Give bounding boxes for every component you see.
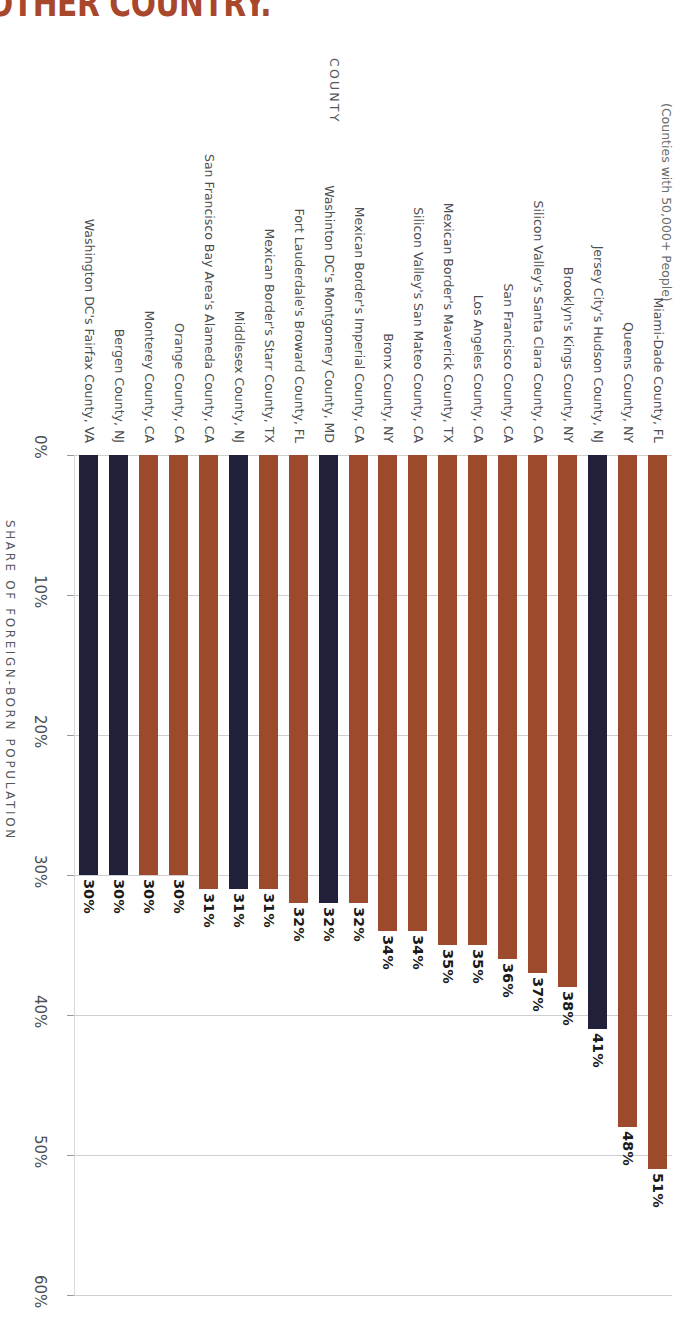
bar-9[interactable]: [349, 455, 368, 903]
value-axis-tick-label: 60%: [32, 1275, 47, 1308]
gridline-60pct: [74, 1295, 672, 1296]
category-label-9: Mexican Border's Imperial County, CA: [353, 207, 366, 443]
bar-value-label-17: 41%: [591, 1033, 606, 1068]
bar-value-label-1: 30%: [112, 879, 127, 914]
tick-mark-50pct: [67, 1155, 74, 1156]
tick-mark-40pct: [67, 1015, 74, 1016]
bar-value-label-12: 35%: [441, 949, 456, 984]
category-axis-subtitle: (Counties with 50,000+ People): [660, 103, 673, 302]
tick-mark-20pct: [67, 735, 74, 736]
category-label-17: Jersey City's Hudson County, NJ: [592, 246, 605, 443]
bar-16[interactable]: [558, 455, 577, 987]
bar-0[interactable]: [79, 455, 98, 875]
bar-3[interactable]: [169, 455, 188, 875]
tick-mark-30pct: [67, 875, 74, 876]
bar-value-label-6: 31%: [262, 893, 277, 928]
bar-11[interactable]: [408, 455, 427, 931]
bar-value-label-9: 32%: [352, 907, 367, 942]
bar-value-label-16: 38%: [561, 991, 576, 1026]
value-axis-tick-label: 30%: [32, 855, 47, 888]
category-label-3: Orange County, CA: [173, 323, 186, 443]
category-label-4: San Francisco Bay Area's Alameda County,…: [203, 154, 216, 443]
value-axis-title: SHARE OF FOREIGN-BORN POPULATION: [4, 520, 16, 841]
category-label-16: Brooklyn's Kings County, NY: [562, 267, 575, 443]
bar-14[interactable]: [498, 455, 517, 959]
bar-value-label-19: 51%: [651, 1173, 666, 1208]
gridline-0pct: [74, 455, 672, 456]
tick-mark-60pct: [67, 1295, 74, 1296]
bar-15[interactable]: [528, 455, 547, 973]
value-axis-tick-label: 0%: [32, 435, 47, 459]
bar-5[interactable]: [229, 455, 248, 889]
bar-17[interactable]: [588, 455, 607, 1029]
gridline-20pct: [74, 735, 672, 736]
category-label-1: Bergen County, NJ: [113, 329, 126, 443]
category-label-18: Queens County, NY: [622, 322, 635, 443]
bar-value-label-13: 35%: [471, 949, 486, 984]
bar-1[interactable]: [109, 455, 128, 875]
bar-2[interactable]: [139, 455, 158, 875]
bar-chart-plot: 0%10%20%30%40%50%60%SHARE OF FOREIGN-BOR…: [0, 0, 680, 1328]
bar-19[interactable]: [648, 455, 667, 1169]
category-label-15: Silicon Valley's Santa Clara County, CA: [532, 201, 545, 443]
bar-value-label-3: 30%: [172, 879, 187, 914]
category-label-13: Los Angeles County, CA: [472, 295, 485, 443]
bar-value-label-8: 32%: [322, 907, 337, 942]
category-label-14: San Francisco County, CA: [502, 283, 515, 443]
bar-value-label-15: 37%: [531, 977, 546, 1012]
bar-value-label-2: 30%: [142, 879, 157, 914]
category-label-8: Washinton DC's Montgomery County, MD: [323, 185, 336, 443]
category-label-19: Miami-Dade County, FL: [652, 297, 665, 443]
category-label-10: Bronx County, NY: [382, 333, 395, 443]
value-axis-tick-label: 40%: [32, 995, 47, 1028]
bar-value-label-4: 31%: [202, 893, 217, 928]
category-axis-title: COUNTY: [328, 58, 341, 124]
gridline-40pct: [74, 1015, 672, 1016]
category-label-7: Fort Lauderdale's Broward County, FL: [293, 208, 306, 443]
chart-page: OTHER COUNTRY. 0%10%20%30%40%50%60%SHARE…: [0, 0, 680, 1328]
bar-13[interactable]: [468, 455, 487, 945]
bar-4[interactable]: [199, 455, 218, 889]
category-label-2: Monterey County, CA: [143, 310, 156, 443]
category-label-5: Middlesex County, NJ: [233, 311, 246, 443]
category-label-11: Silicon Valley's San Mateo County, CA: [412, 207, 425, 443]
bar-6[interactable]: [259, 455, 278, 889]
category-label-0: Washington DC's Fairfax County, VA: [83, 219, 96, 443]
category-label-12: Mexican Border's Maverick County, TX: [442, 203, 455, 443]
bar-value-label-5: 31%: [232, 893, 247, 928]
bar-value-label-10: 34%: [381, 935, 396, 970]
bar-18[interactable]: [618, 455, 637, 1127]
bar-8[interactable]: [319, 455, 338, 903]
bar-value-label-18: 48%: [621, 1131, 636, 1166]
value-axis-tick-label: 10%: [32, 575, 47, 608]
bar-value-label-0: 30%: [82, 879, 97, 914]
gridline-50pct: [74, 1155, 672, 1156]
gridline-30pct: [74, 875, 672, 876]
category-label-6: Mexican Border's Starr County, TX: [263, 228, 276, 443]
tick-mark-10pct: [67, 595, 74, 596]
bar-value-label-11: 34%: [411, 935, 426, 970]
bar-10[interactable]: [378, 455, 397, 931]
bar-7[interactable]: [289, 455, 308, 903]
tick-mark-0pct: [67, 455, 74, 456]
bar-12[interactable]: [438, 455, 457, 945]
gridline-10pct: [74, 595, 672, 596]
bar-value-label-7: 32%: [292, 907, 307, 942]
value-axis-line: [74, 455, 75, 1295]
value-axis-tick-label: 20%: [32, 715, 47, 748]
value-axis-tick-label: 50%: [32, 1135, 47, 1168]
bar-value-label-14: 36%: [501, 963, 516, 998]
